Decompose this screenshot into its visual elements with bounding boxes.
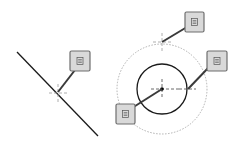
leader-line [58,70,75,92]
leader-line [132,89,162,108]
line-point-crosshair [49,84,67,102]
cad-diagram [0,0,244,147]
center-tag[interactable] [116,104,135,124]
line-point-tag[interactable] [70,51,90,71]
quadrant-right-tag[interactable] [207,51,227,71]
quadrant-top-tag[interactable] [185,12,204,32]
leader-line [162,27,187,42]
